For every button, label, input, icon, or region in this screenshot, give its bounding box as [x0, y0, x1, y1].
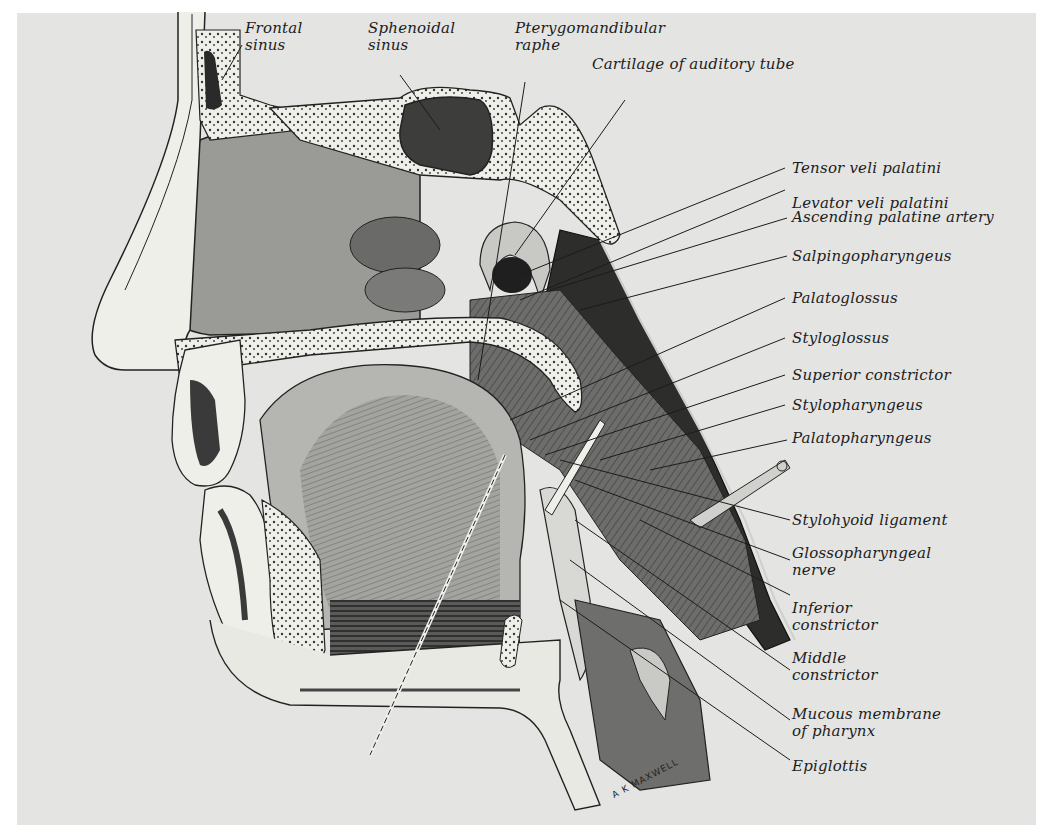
label-sphenoidal-sinus-line1: Sphenoidal [368, 20, 455, 37]
label-palatopharyngeus: Palatopharyngeus [792, 430, 932, 447]
label-inferior-constrictor-line1: Inferior [792, 600, 878, 617]
label-frontal-sinus-line1: Frontal [245, 20, 302, 37]
label-middle-constrictor: Middle constrictor [792, 650, 878, 684]
auditory-tube [480, 222, 550, 300]
label-pterygomandibular-line1: Pterygomandibular [515, 20, 665, 37]
upper-lip [172, 340, 245, 486]
label-glossopharyngeal-line1: Glossopharyngeal [792, 545, 931, 562]
label-glossopharyngeal-nerve: Glossopharyngeal nerve [792, 545, 931, 579]
label-frontal-sinus: Frontal sinus [245, 20, 302, 54]
label-ascending-palatine-artery: Ascending palatine artery [792, 209, 994, 226]
label-inferior-constrictor-line2: constrictor [792, 617, 878, 634]
label-mucous-membrane-line2: of pharynx [792, 723, 941, 740]
label-tensor-veli-palatini: Tensor veli palatini [792, 160, 941, 177]
label-superior-constrictor: Superior constrictor [792, 367, 951, 384]
label-inferior-constrictor: Inferior constrictor [792, 600, 878, 634]
label-pterygomandibular-raphe: Pterygomandibular raphe [515, 20, 665, 54]
label-cartilage-auditory-tube: Cartilage of auditory tube [592, 56, 795, 73]
label-middle-constrictor-line1: Middle [792, 650, 878, 667]
label-styloglossus: Styloglossus [792, 330, 889, 347]
label-stylopharyngeus: Stylopharyngeus [792, 397, 923, 414]
label-sphenoidal-sinus-line2: sinus [368, 37, 455, 54]
label-glossopharyngeal-line2: nerve [792, 562, 931, 579]
label-sphenoidal-sinus: Sphenoidal sinus [368, 20, 455, 54]
label-mucous-membrane-line1: Mucous membrane [792, 706, 941, 723]
label-epiglottis: Epiglottis [792, 758, 867, 775]
label-salpingopharyngeus: Salpingopharyngeus [792, 248, 952, 265]
label-palatoglossus: Palatoglossus [792, 290, 898, 307]
nose-outline [92, 12, 205, 370]
label-middle-constrictor-line2: constrictor [792, 667, 878, 684]
label-stylohyoid-ligament: Stylohyoid ligament [792, 512, 948, 529]
label-pterygomandibular-line2: raphe [515, 37, 665, 54]
label-mucous-membrane-pharynx: Mucous membrane of pharynx [792, 706, 941, 740]
label-frontal-sinus-line2: sinus [245, 37, 302, 54]
